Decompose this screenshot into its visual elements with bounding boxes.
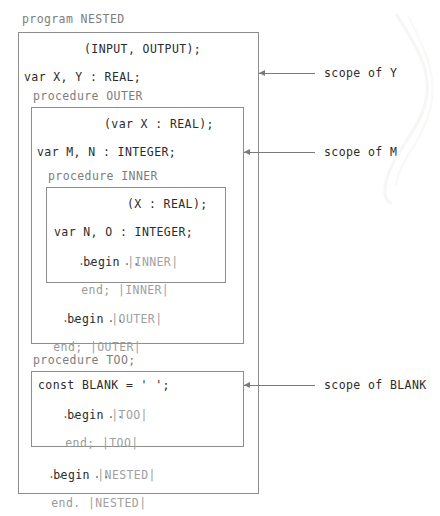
nested-end-line: end. |NESTED| (22, 481, 147, 516)
annotation-scope-of-m: scope of M (244, 145, 397, 159)
nested-end-tag: |NESTED| (88, 496, 147, 510)
outer-body-ellipsis: ....... (62, 311, 126, 326)
scan-watermark-icon (300, 14, 440, 204)
too-body-ellipsis: ....... (62, 407, 126, 422)
outer-params: (var X : REAL); (104, 117, 214, 132)
nested-body-ellipsis: ....... (48, 467, 112, 482)
program-header: program NESTED (22, 12, 125, 27)
annotation-scope-of-y-label: scope of Y (324, 66, 397, 80)
too-end-tag: |TOO| (102, 436, 139, 450)
outer-var-declaration: var M, N : INTEGER; (37, 145, 176, 160)
outer-header: procedure OUTER (33, 89, 143, 104)
inner-params: (X : REAL); (127, 197, 208, 212)
too-end-keyword: end; (65, 436, 102, 450)
too-const-declaration: const BLANK = ' '; (38, 378, 170, 393)
too-header: procedure TOO; (33, 353, 136, 368)
inner-header: procedure INNER (48, 169, 158, 184)
annotation-scope-of-m-label: scope of M (324, 145, 397, 159)
nested-end-keyword: end. (51, 496, 88, 510)
scope-diagram: program NESTED (INPUT, OUTPUT); var X, Y… (0, 0, 440, 516)
arrow-scope-of-y-icon (259, 73, 315, 74)
inner-body-ellipsis: ....... (78, 254, 142, 269)
inner-end-keyword: end; (81, 283, 118, 297)
nested-var-declaration: var X, Y : REAL; (24, 70, 141, 85)
annotation-scope-of-blank: scope of BLANK (244, 378, 427, 392)
arrow-scope-of-m-icon (244, 152, 315, 153)
outer-end-keyword: end; (53, 340, 90, 354)
nested-params: (INPUT, OUTPUT); (84, 42, 201, 57)
annotation-scope-of-y: scope of Y (259, 66, 397, 80)
inner-var-declaration: var N, O : INTEGER; (54, 225, 193, 240)
inner-end-tag: |INNER| (118, 283, 169, 297)
annotation-scope-of-blank-label: scope of BLANK (324, 378, 427, 392)
outer-end-tag: |OUTER| (90, 340, 141, 354)
arrow-scope-of-blank-icon (244, 385, 315, 386)
